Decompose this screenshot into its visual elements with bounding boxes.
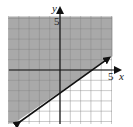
inequality-graph: y 5 5 x	[0, 0, 133, 127]
x-tick-label: 5	[108, 70, 114, 82]
y-tick-label: 5	[54, 15, 60, 27]
y-axis-label: y	[51, 2, 57, 14]
x-axis-label: x	[118, 70, 124, 82]
